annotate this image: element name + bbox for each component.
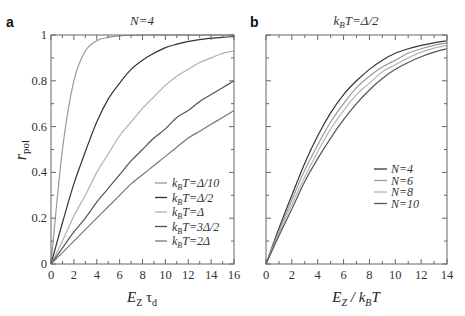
x-tick-label: 12 bbox=[415, 268, 428, 282]
y-tick-label: 0.6 bbox=[31, 120, 47, 134]
x-tick-label: 12 bbox=[182, 268, 195, 282]
x-tick-label: 6 bbox=[117, 268, 123, 282]
x-tick-label: 14 bbox=[441, 268, 454, 282]
x-tick-label: 2 bbox=[289, 268, 295, 282]
x-tick-label: 4 bbox=[94, 268, 101, 282]
y-tick-label: 0.8 bbox=[31, 74, 47, 88]
x-tick-label: 14 bbox=[205, 268, 218, 282]
y-tick-label: 0 bbox=[41, 257, 47, 271]
legend-item: N=10 bbox=[390, 197, 419, 211]
x-tick-label: 10 bbox=[159, 268, 172, 282]
curve bbox=[266, 41, 447, 264]
figure: a b N=4 kBT=Δ/2 024681012141600.20.40.60… bbox=[0, 0, 465, 316]
y-tick-label: 0.4 bbox=[31, 165, 47, 179]
curve bbox=[266, 43, 447, 264]
panel-a-letter: a bbox=[6, 14, 14, 30]
panel-a-plot: 024681012141600.20.40.60.81 kBT=Δ/10kBT=… bbox=[31, 28, 240, 282]
y-tick-label: 1 bbox=[41, 28, 47, 42]
panel-b-title: kBT=Δ/2 bbox=[333, 13, 379, 30]
panel-a-title: N=4 bbox=[129, 13, 154, 28]
curve bbox=[266, 45, 447, 264]
panel-b-frame bbox=[266, 35, 447, 264]
y-tick-label: 0.2 bbox=[31, 211, 47, 225]
x-tick-label: 2 bbox=[71, 268, 77, 282]
x-tick-label: 8 bbox=[139, 268, 145, 282]
panel-b-letter: b bbox=[250, 14, 259, 30]
x-tick-label: 8 bbox=[366, 268, 372, 282]
panel-b-curves bbox=[266, 41, 447, 264]
x-tick-label: 16 bbox=[228, 268, 241, 282]
panel-a-legend: kBT=Δ/10kBT=Δ/2kBT=ΔkBT=3Δ/2kBT=2Δ bbox=[155, 176, 219, 250]
x-tick-label: 4 bbox=[315, 268, 322, 282]
panel-b-x-axis-label: EZ / kBT bbox=[331, 289, 381, 308]
y-axis-label: rpol bbox=[12, 140, 31, 160]
x-tick-label: 6 bbox=[340, 268, 346, 282]
panel-b-legend: N=4N=6N=8N=10 bbox=[374, 162, 419, 211]
legend-item: kBT=2Δ bbox=[172, 234, 210, 250]
panel-a-x-axis-label: EZ τd bbox=[126, 289, 157, 308]
panel-b-plot: 02468101214 N=4N=6N=8N=10 bbox=[263, 35, 454, 282]
x-tick-label: 10 bbox=[389, 268, 402, 282]
panel-b-ticks: 02468101214 bbox=[263, 35, 454, 282]
x-tick-label: 0 bbox=[48, 268, 54, 282]
x-tick-label: 0 bbox=[263, 268, 269, 282]
